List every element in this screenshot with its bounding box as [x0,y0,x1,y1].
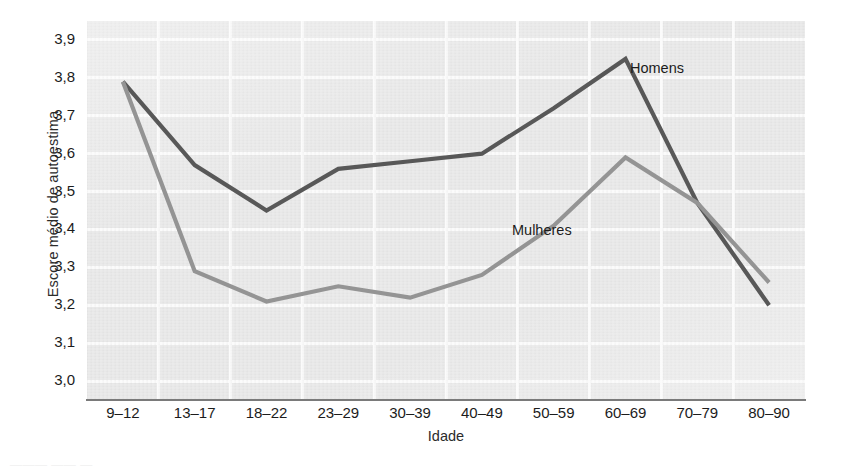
series-label-mulheres: Mulheres [512,222,572,238]
y-tick-label: 3,8 [29,68,75,85]
x-tick-label: 70–79 [676,404,718,421]
x-tick-label: 9–12 [106,404,139,421]
y-tick-label: 3,0 [29,371,75,388]
y-tick-label: 3,9 [29,30,75,47]
series-line-homens [123,59,769,305]
x-axis-title: Idade [87,428,805,444]
y-tick-label: 3,6 [29,144,75,161]
x-tick-label: 13–17 [174,404,216,421]
caption-remnant: ——— —— — [10,458,93,472]
chart-figure: Escore médio de autoestima 3,03,13,23,33… [0,0,841,472]
x-axis-line [86,399,806,401]
series-label-homens: Homens [630,60,684,76]
y-tick-label: 3,7 [29,106,75,123]
x-tick-label: 30–39 [389,404,431,421]
x-tick-label: 23–29 [317,404,359,421]
y-tick-label: 3,3 [29,257,75,274]
series-line-mulheres [123,82,769,302]
y-tick-label: 3,1 [29,333,75,350]
x-tick-label: 80–90 [748,404,790,421]
x-tick-label: 18–22 [246,404,288,421]
plot-area [87,21,805,400]
x-tick-label: 60–69 [605,404,647,421]
y-tick-label: 3,5 [29,182,75,199]
series-lines [87,21,805,400]
y-tick-label: 3,4 [29,219,75,236]
y-tick-label: 3,2 [29,295,75,312]
x-tick-label: 50–59 [533,404,575,421]
x-tick-label: 40–49 [461,404,503,421]
